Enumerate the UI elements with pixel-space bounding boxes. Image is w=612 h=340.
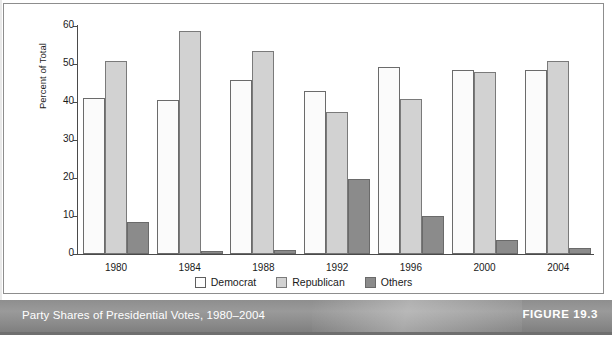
- x-axis-line: [77, 254, 594, 255]
- legend-item-others[interactable]: Others: [365, 276, 413, 288]
- bar-others-1988[interactable]: [274, 250, 296, 254]
- y-axis-tick-label: 30: [63, 133, 74, 144]
- bar-republican-1988[interactable]: [252, 51, 274, 254]
- legend-swatch-democrat-icon: [195, 277, 206, 288]
- y-axis-tick-label: 40: [63, 95, 74, 106]
- x-axis-tick-label: 2004: [528, 262, 588, 273]
- bar-others-1984[interactable]: [201, 251, 223, 254]
- bar-democrat-2000[interactable]: [452, 70, 474, 254]
- bar-democrat-1992[interactable]: [304, 91, 326, 254]
- bar-republican-1992[interactable]: [326, 112, 348, 255]
- x-axis-tick-label: 1988: [233, 262, 293, 273]
- chart-frame: Percent of Total 0102030405060 198019841…: [3, 3, 604, 294]
- bar-democrat-1980[interactable]: [83, 98, 105, 254]
- bar-others-2000[interactable]: [496, 240, 518, 254]
- figure-caption-bar: Party Shares of Presidential Votes, 1980…: [0, 300, 612, 332]
- bar-democrat-1988[interactable]: [230, 80, 252, 254]
- legend-swatch-others-icon: [365, 277, 376, 288]
- legend-swatch-republican-icon: [276, 277, 287, 288]
- bar-group-1980: [83, 26, 149, 254]
- y-axis-tick-label: 50: [63, 57, 74, 68]
- x-axis-tick-label: 1992: [307, 262, 367, 273]
- bar-republican-1980[interactable]: [105, 61, 127, 254]
- legend-label: Republican: [292, 276, 345, 288]
- bar-others-1996[interactable]: [422, 216, 444, 254]
- legend-label: Democrat: [211, 276, 257, 288]
- x-axis-tick-label: 2000: [455, 262, 515, 273]
- bar-republican-2000[interactable]: [474, 72, 496, 254]
- bar-others-1980[interactable]: [127, 222, 149, 254]
- bar-republican-2004[interactable]: [547, 61, 569, 254]
- y-axis-tick-label: 0: [68, 247, 74, 258]
- figure-root: Percent of Total 0102030405060 198019841…: [0, 0, 612, 340]
- bar-republican-1996[interactable]: [400, 99, 422, 254]
- bar-democrat-1984[interactable]: [157, 100, 179, 254]
- bar-others-2004[interactable]: [569, 248, 591, 254]
- bar-group-2000: [452, 26, 518, 254]
- figure-caption-text: Party Shares of Presidential Votes, 1980…: [22, 309, 265, 321]
- chart-legend: DemocratRepublicanOthers: [4, 276, 603, 288]
- y-axis-tick-label: 20: [63, 171, 74, 182]
- bar-group-1984: [157, 26, 223, 254]
- plot-area: 0102030405060 19801984198819921996200020…: [78, 26, 594, 254]
- bar-group-1992: [304, 26, 370, 254]
- legend-item-democrat[interactable]: Democrat: [195, 276, 257, 288]
- caption-underline: [0, 332, 612, 335]
- bar-democrat-2004[interactable]: [525, 70, 547, 254]
- y-axis-title: Percent of Total: [37, 43, 48, 109]
- page-edge: [0, 0, 2, 300]
- figure-number-label: FIGURE 19.3: [522, 308, 598, 320]
- x-axis-tick-label: 1984: [160, 262, 220, 273]
- x-axis-tick-label: 1980: [86, 262, 146, 273]
- bar-others-1992[interactable]: [348, 179, 370, 254]
- x-axis-tick-label: 1996: [381, 262, 441, 273]
- y-axis-tick-label: 10: [63, 209, 74, 220]
- y-axis-tick-label: 60: [63, 19, 74, 30]
- bar-group-2004: [525, 26, 591, 254]
- bar-democrat-1996[interactable]: [378, 67, 400, 254]
- legend-item-republican[interactable]: Republican: [276, 276, 345, 288]
- legend-label: Others: [381, 276, 413, 288]
- bar-group-1996: [378, 26, 444, 254]
- bar-group-1988: [230, 26, 296, 254]
- caption-sheen: [312, 300, 522, 332]
- bar-republican-1984[interactable]: [179, 31, 201, 254]
